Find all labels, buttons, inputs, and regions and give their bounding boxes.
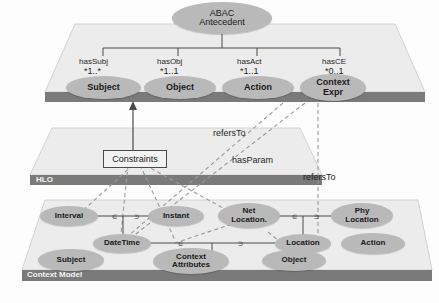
node-label-line2: Attributes — [172, 261, 210, 269]
node-datetime[interactable]: DateTime — [93, 234, 151, 253]
node-label: Action — [244, 83, 272, 92]
relation-label-refersTo-2: refersTo — [303, 172, 336, 182]
svg-text:∈: ∈ — [292, 214, 297, 220]
node-label: DateTime — [104, 239, 140, 247]
node-phy-location[interactable]: Phy Location — [331, 203, 393, 228]
node-abac-antecedent[interactable]: ABAC Antecedent — [172, 2, 272, 34]
node-label: Location — [286, 239, 319, 247]
relation-label-refersTo-1: refersTo — [213, 128, 246, 138]
association-label-hasObj: hasObj — [157, 57, 182, 66]
node-label: Object — [282, 256, 307, 264]
node-context-attributes[interactable]: Context Attributes — [153, 248, 229, 274]
cross-layer-dashed-links — [78, 103, 318, 252]
svg-text:∈: ∈ — [178, 241, 183, 247]
association-label-hasSubj: hasSubj — [79, 57, 108, 66]
association-multiplicity-hasAct: *1..1 — [240, 66, 259, 76]
node-label-line2: Location. — [231, 216, 267, 224]
layer-band-label-hlo: HLO — [36, 175, 53, 184]
abac-association-tree — [103, 32, 340, 56]
node-interval[interactable]: Interval — [40, 206, 98, 226]
node-top-action[interactable]: Action — [222, 76, 294, 99]
node-context-action[interactable]: Action — [341, 233, 405, 254]
diagram-canvas: ∈ ∋ ∈ ∋ ∈ ∋ ABAC Antecedent hasSubj *1..… — [0, 0, 439, 303]
node-label: Action — [361, 239, 386, 247]
relation-label-hasParam: hasParam — [232, 155, 273, 165]
layer-band-label-context-model: Context Model — [27, 270, 82, 279]
svg-text:∋: ∋ — [238, 241, 243, 247]
node-label: Interval — [55, 212, 83, 220]
node-context-object[interactable]: Object — [262, 250, 326, 271]
node-label: Object — [166, 83, 194, 92]
association-multiplicity-hasObj: *1..1 — [160, 66, 179, 76]
node-top-context-expr[interactable]: Context Expr — [300, 74, 366, 101]
node-constraints[interactable]: Constraints — [103, 150, 167, 168]
node-instant[interactable]: Instant — [148, 206, 204, 226]
svg-text:∋: ∋ — [314, 214, 319, 220]
node-label: Instant — [163, 212, 189, 220]
node-context-subject[interactable]: Subject — [38, 249, 104, 271]
association-label-hasCE: hasCE — [322, 57, 346, 66]
node-top-subject[interactable]: Subject — [66, 76, 141, 99]
association-multiplicity-hasSubj: *1..* — [84, 66, 101, 76]
node-top-object[interactable]: Object — [144, 76, 216, 99]
node-label: Subject — [57, 256, 86, 264]
association-label-hasAct: hasAct — [237, 57, 261, 66]
node-label-line2: Antecedent — [199, 18, 245, 27]
node-label-line2: Expr — [323, 88, 343, 97]
constraints-to-hlo-arrow — [129, 101, 137, 151]
node-label-line2: Location — [345, 216, 378, 224]
svg-text:∋: ∋ — [134, 214, 139, 220]
node-net-location[interactable]: Net Location. — [218, 203, 280, 228]
node-label: Subject — [87, 83, 120, 92]
svg-text:∈: ∈ — [112, 214, 117, 220]
node-label: Constraints — [112, 154, 158, 164]
